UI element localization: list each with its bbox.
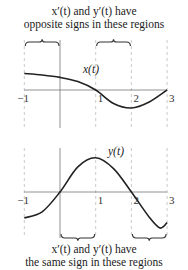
curve-label: x(t) xyxy=(82,63,99,76)
x-tick-label: −1 xyxy=(17,194,29,206)
top-brace xyxy=(97,39,131,46)
x-tick-label: 1 xyxy=(98,194,104,206)
x-tick-label: 3 xyxy=(169,92,175,104)
bottom-caption-line1: x′(t) and y′(t) have xyxy=(0,243,188,256)
bottom-caption: x′(t) and y′(t) have the same sign in th… xyxy=(0,243,188,269)
bottom-caption-line2: the same sign in these regions xyxy=(0,256,188,269)
x-tick-label: 3 xyxy=(169,194,175,206)
x-tick-label: −1 xyxy=(17,92,29,104)
top-brace xyxy=(25,39,59,46)
bottom-brace xyxy=(61,234,95,241)
diagram-svg: −1123x(t)−1123y(t) xyxy=(0,0,188,270)
bottom-brace xyxy=(132,234,166,241)
x-tick-label: 2 xyxy=(133,92,139,104)
curve-label: y(t) xyxy=(107,145,124,158)
